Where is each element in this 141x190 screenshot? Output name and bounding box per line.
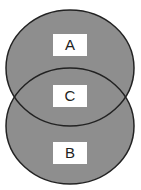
region-label-a: A bbox=[53, 34, 87, 56]
region-label-b: B bbox=[53, 142, 87, 164]
region-label-c: C bbox=[53, 85, 87, 107]
